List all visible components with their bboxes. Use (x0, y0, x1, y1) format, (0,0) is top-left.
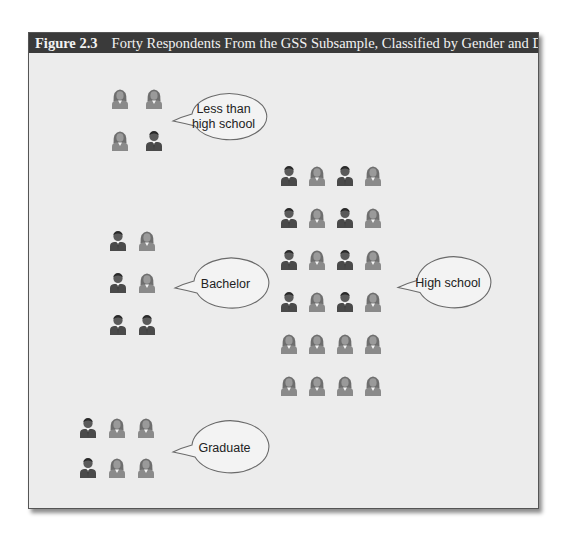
female-icon (364, 332, 382, 354)
speech-bubble-less-than-high-school: Less thanhigh school (172, 92, 265, 142)
female-icon (308, 206, 326, 228)
male-icon (336, 164, 354, 186)
female-icon (108, 416, 126, 438)
female-icon (308, 332, 326, 354)
female-icon (137, 416, 155, 438)
female-icon (364, 206, 382, 228)
male-icon (79, 456, 97, 478)
male-icon (336, 248, 354, 270)
male-icon (280, 206, 298, 228)
male-icon (280, 290, 298, 312)
figure-title: Forty Respondents From the GSS Subsample… (112, 35, 538, 51)
male-icon (336, 290, 354, 312)
female-icon (280, 332, 298, 354)
female-icon (308, 290, 326, 312)
male-icon (280, 248, 298, 270)
female-icon (111, 87, 129, 109)
male-icon (280, 164, 298, 186)
female-icon (336, 332, 354, 354)
female-icon (308, 164, 326, 186)
figure-number: Figure 2.3 (35, 35, 98, 51)
male-icon (109, 229, 127, 251)
bubble-label: Bachelor (174, 257, 267, 311)
female-icon (364, 290, 382, 312)
female-icon (308, 374, 326, 396)
male-icon (109, 313, 127, 335)
female-icon (308, 248, 326, 270)
female-icon (364, 164, 382, 186)
female-icon (111, 129, 129, 151)
male-icon (109, 271, 127, 293)
male-icon (336, 206, 354, 228)
speech-bubble-bachelor: Bachelor (174, 257, 267, 311)
male-icon (138, 313, 156, 335)
female-icon (145, 87, 163, 109)
female-icon (138, 271, 156, 293)
female-icon (336, 374, 354, 396)
speech-bubble-graduate: Graduate (172, 420, 267, 476)
figure-header: Figure 2.3Forty Respondents From the GSS… (29, 33, 538, 53)
male-icon (145, 129, 163, 151)
bubble-label: Graduate (172, 420, 267, 476)
female-icon (138, 229, 156, 251)
bubble-label: Less thanhigh school (172, 92, 265, 142)
bubble-label: High school (397, 256, 489, 311)
female-icon (137, 456, 155, 478)
female-icon (364, 248, 382, 270)
female-icon (280, 374, 298, 396)
female-icon (108, 456, 126, 478)
female-icon (364, 374, 382, 396)
male-icon (79, 416, 97, 438)
speech-bubble-high-school: High school (397, 256, 489, 311)
